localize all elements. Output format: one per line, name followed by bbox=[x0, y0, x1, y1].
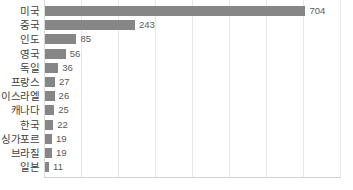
category-label: 일본 bbox=[0, 160, 40, 174]
bar-value-label: 243 bbox=[139, 20, 155, 30]
bar-wrapper: 56 bbox=[45, 49, 80, 59]
bar-value-label: 25 bbox=[58, 105, 69, 115]
bar-value-label: 19 bbox=[56, 134, 67, 144]
bar-value-label: 27 bbox=[59, 77, 70, 87]
bar-row: 미국704 bbox=[0, 4, 353, 18]
bar-wrapper: 85 bbox=[45, 34, 91, 44]
bar-row: 일본11 bbox=[0, 160, 353, 174]
bar-row: 이스라엘26 bbox=[0, 89, 353, 103]
bar-row: 한국22 bbox=[0, 118, 353, 132]
category-label: 독일 bbox=[0, 61, 40, 75]
bar-value-label: 11 bbox=[53, 162, 63, 172]
bar-row: 싱가포르19 bbox=[0, 132, 353, 146]
bar-value-label: 22 bbox=[57, 120, 68, 130]
bar bbox=[45, 63, 58, 73]
category-label: 캐나다 bbox=[0, 103, 40, 117]
category-label: 이스라엘 bbox=[0, 89, 40, 103]
bar-value-label: 704 bbox=[309, 6, 325, 16]
bar-row: 독일36 bbox=[0, 61, 353, 75]
bar bbox=[45, 77, 55, 87]
category-label: 인도 bbox=[0, 32, 40, 46]
bar-wrapper: 704 bbox=[45, 6, 325, 16]
bar-value-label: 56 bbox=[70, 49, 81, 59]
bar-wrapper: 25 bbox=[45, 105, 69, 115]
category-label: 미국 bbox=[0, 4, 40, 18]
bar bbox=[45, 105, 54, 115]
category-label: 싱가포르 bbox=[0, 132, 40, 146]
bar-row: 영국56 bbox=[0, 47, 353, 61]
bar-value-label: 85 bbox=[80, 34, 91, 44]
category-label: 프랑스 bbox=[0, 75, 40, 89]
bar bbox=[45, 162, 49, 172]
category-label: 한국 bbox=[0, 118, 40, 132]
category-label: 영국 bbox=[0, 47, 40, 61]
bar bbox=[45, 120, 53, 130]
category-label: 중국 bbox=[0, 18, 40, 32]
bar bbox=[45, 134, 52, 144]
bar-value-label: 26 bbox=[59, 91, 70, 101]
bar-wrapper: 19 bbox=[45, 148, 67, 158]
bar-wrapper: 36 bbox=[45, 63, 73, 73]
bar-wrapper: 243 bbox=[45, 20, 155, 30]
category-label: 브라질 bbox=[0, 146, 40, 160]
bar-wrapper: 19 bbox=[45, 134, 67, 144]
bar-value-label: 19 bbox=[56, 148, 67, 158]
bar-rows: 미국704중국243인도85영국56독일36프랑스27이스라엘26캐나다25한국… bbox=[0, 0, 353, 178]
bar-chart: 미국704중국243인도85영국56독일36프랑스27이스라엘26캐나다25한국… bbox=[0, 0, 353, 190]
bar-row: 중국243 bbox=[0, 18, 353, 32]
bar bbox=[45, 148, 52, 158]
bar-wrapper: 22 bbox=[45, 120, 68, 130]
bar-row: 인도85 bbox=[0, 32, 353, 46]
bar-row: 브라질19 bbox=[0, 146, 353, 160]
bar bbox=[45, 20, 135, 30]
bar-wrapper: 11 bbox=[45, 162, 63, 172]
bar-value-label: 36 bbox=[62, 63, 73, 73]
bar-wrapper: 26 bbox=[45, 91, 69, 101]
bar-wrapper: 27 bbox=[45, 77, 70, 87]
bar bbox=[45, 49, 66, 59]
bar bbox=[45, 34, 76, 44]
bar bbox=[45, 91, 55, 101]
bar-row: 캐나다25 bbox=[0, 103, 353, 117]
bar bbox=[45, 6, 305, 16]
bar-row: 프랑스27 bbox=[0, 75, 353, 89]
